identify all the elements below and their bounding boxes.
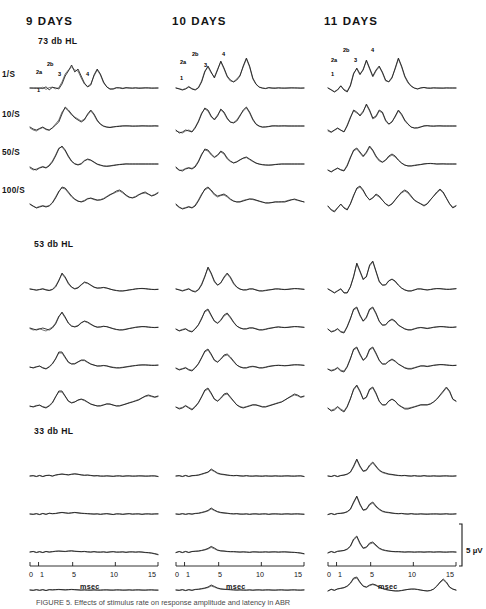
axis-tick-1-c9: 1 xyxy=(40,570,44,579)
waveform-trace xyxy=(176,469,304,476)
scale-bar-label: 5 µV xyxy=(466,546,483,555)
waveform-trace xyxy=(176,187,304,209)
axis-tick-10-c11: 10 xyxy=(408,570,416,579)
axis-tick-0-c9: 0 xyxy=(29,570,33,579)
waveform-trace xyxy=(328,347,456,372)
waveform-trace xyxy=(328,261,456,293)
axis-tick-5-c9: 5 xyxy=(72,570,76,579)
waveform-trace xyxy=(30,551,158,555)
waveform-trace xyxy=(30,187,158,208)
waveform-trace xyxy=(176,108,304,133)
amplitude-scale-bar xyxy=(459,524,462,566)
axis-tick-15-c11: 15 xyxy=(446,570,454,579)
waveform-trace xyxy=(30,146,158,170)
waveform-trace xyxy=(30,474,158,477)
waveform-trace xyxy=(176,547,304,554)
waveform-trace xyxy=(328,187,456,211)
waveform-trace xyxy=(176,107,304,133)
figure-caption: FIGURE 5. Effects of stimulus rate on re… xyxy=(36,598,456,609)
waveform-trace xyxy=(176,388,304,410)
axis-tick-1-c10: 1 xyxy=(186,570,190,579)
waveform-trace xyxy=(176,309,304,332)
waveform-trace xyxy=(30,67,158,89)
axis-tick-15-c10: 15 xyxy=(294,570,302,579)
axis-tick-5-c11: 5 xyxy=(370,570,374,579)
waveform-trace xyxy=(30,108,158,131)
waveform-trace xyxy=(328,262,456,293)
waveform-trace xyxy=(176,268,304,291)
waveform-trace xyxy=(176,389,304,409)
waveform-trace xyxy=(328,459,456,477)
waveform-trace xyxy=(30,312,158,330)
waveform-trace xyxy=(176,149,304,171)
waveform-trace xyxy=(328,147,456,172)
axis-tick-15-c9: 15 xyxy=(148,570,156,579)
waveform-trace xyxy=(30,353,158,369)
waveform-trace xyxy=(176,267,304,292)
waveform-trace xyxy=(30,352,158,369)
waveform-trace xyxy=(328,496,456,515)
waveform-trace xyxy=(30,147,158,170)
waveform-trace xyxy=(30,313,158,331)
axis-unit-c9: msec xyxy=(80,582,100,591)
axis-tick-1-c11: 1 xyxy=(338,570,342,579)
waveform-trace xyxy=(328,186,456,212)
waveform-trace xyxy=(176,59,304,90)
waveform-trace xyxy=(328,104,456,132)
axis-tick-0-c10: 0 xyxy=(175,570,179,579)
waveform-trace xyxy=(328,308,456,332)
waveform-trace xyxy=(328,58,456,92)
axis-tick-0-c11: 0 xyxy=(327,570,331,579)
waveform-trace xyxy=(30,107,158,130)
waveform-plot-surface xyxy=(0,0,486,609)
axis-unit-c11: msec xyxy=(378,582,398,591)
waveform-trace xyxy=(328,146,456,172)
waveform-trace xyxy=(328,536,456,553)
waveform-trace xyxy=(328,105,456,132)
waveform-trace xyxy=(30,65,158,90)
waveform-trace xyxy=(30,273,158,291)
axis-tick-5-c10: 5 xyxy=(218,570,222,579)
axis-tick-10-c9: 10 xyxy=(110,570,118,579)
waveform-trace xyxy=(328,385,456,412)
waveform-trace xyxy=(328,537,456,553)
waveform-trace xyxy=(30,188,158,208)
abr-waveform-figure: 9 DAYS 10 DAYS 11 DAYS 73 db HL 53 db HL… xyxy=(0,0,486,609)
waveform-trace xyxy=(328,59,456,92)
waveform-trace xyxy=(176,349,304,371)
axis-unit-c10: msec xyxy=(226,582,246,591)
axis-tick-10-c10: 10 xyxy=(256,570,264,579)
